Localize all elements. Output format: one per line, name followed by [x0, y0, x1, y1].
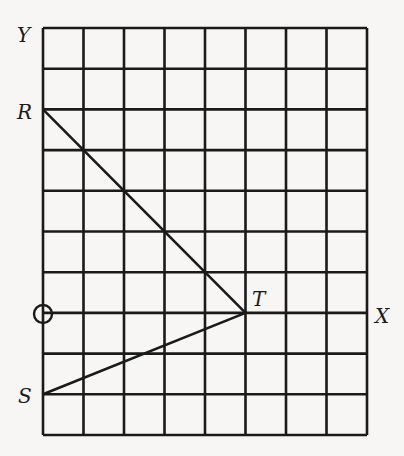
y-axis-label: Y: [17, 23, 32, 47]
point-label-s: S: [18, 384, 32, 408]
x-axis-label: X: [373, 304, 390, 328]
coordinate-grid-diagram: Y X R T S: [0, 0, 404, 456]
segment-rt: [43, 109, 246, 313]
segments: [43, 109, 246, 394]
point-label-r: R: [16, 100, 32, 124]
point-label-t: T: [252, 287, 267, 311]
